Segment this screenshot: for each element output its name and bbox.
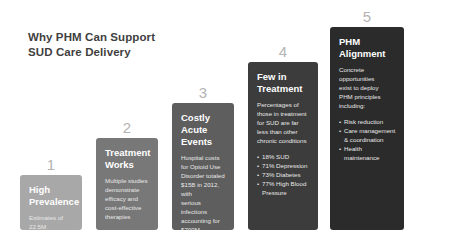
list-item: 73% Diabetes bbox=[257, 171, 310, 180]
step-bar-costly-acute-events[interactable]: Costly Acute Events Hospital costs for O… bbox=[172, 103, 234, 230]
step-number-4: 4 bbox=[248, 44, 318, 59]
step-body-2: Multiple studies demonstrate efficacy an… bbox=[105, 177, 150, 222]
step-bar-phm-alignment[interactable]: PHM Alignment Concrete opportunities exi… bbox=[330, 27, 404, 230]
step-title-3: Costly Acute Events bbox=[181, 112, 226, 148]
step-body-1: Estimates of 22.5M bbox=[29, 214, 74, 230]
step-number-3: 3 bbox=[172, 85, 234, 100]
list-item: 18% SUD bbox=[257, 153, 310, 162]
step-bar-few-in-treatment[interactable]: Few in Treatment Percentages of those in… bbox=[248, 62, 318, 230]
step-number-2: 2 bbox=[96, 120, 158, 135]
list-item: Care management & coordination bbox=[339, 127, 396, 145]
step-bar-treatment-works[interactable]: Treatment Works Multiple studies demonst… bbox=[96, 138, 158, 230]
step-body-5: Concrete opportunities exist to deploy P… bbox=[339, 66, 396, 111]
step-number-5: 5 bbox=[330, 9, 404, 24]
step-body-4: Percentages of those in treatment for SU… bbox=[257, 101, 310, 146]
list-item: Risk reduction bbox=[339, 118, 396, 127]
step-bullets-5: Risk reduction Care management & coordin… bbox=[339, 118, 396, 163]
list-item: 71% Depression bbox=[257, 162, 310, 171]
step-body-3: Hospital costs for Opioid Use Disorder t… bbox=[181, 154, 226, 230]
ascending-bar-diagram: 1 High Prevalence Estimates of 22.5M 2 T… bbox=[0, 0, 464, 238]
step-bullets-4: 18% SUD 71% Depression 73% Diabetes 77% … bbox=[257, 153, 310, 198]
slide-canvas: Why PHM Can Support SUD Care Delivery 1 … bbox=[0, 0, 464, 238]
step-title-5: PHM Alignment bbox=[339, 36, 396, 60]
step-bar-high-prevalence[interactable]: High Prevalence Estimates of 22.5M bbox=[20, 175, 82, 230]
list-item: Health maintenance bbox=[339, 145, 396, 163]
step-title-4: Few in Treatment bbox=[257, 71, 310, 95]
step-title-2: Treatment Works bbox=[105, 147, 150, 171]
step-title-1: High Prevalence bbox=[29, 184, 74, 208]
list-item: 77% High Blood Pressure bbox=[257, 180, 310, 198]
step-number-1: 1 bbox=[20, 157, 82, 172]
